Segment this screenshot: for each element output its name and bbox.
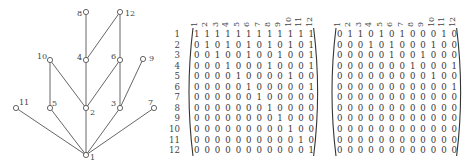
matrix-cell: 1 xyxy=(347,29,352,39)
matrix-cell: 0 xyxy=(410,92,415,102)
column-label: 6 xyxy=(385,22,394,27)
matrix-cell: 1 xyxy=(389,50,394,60)
column-label: 7 xyxy=(253,22,262,27)
column-label: 2 xyxy=(343,22,352,27)
matrix-cell: 0 xyxy=(410,124,415,134)
matrix-cell: 1 xyxy=(410,61,415,71)
matrix-cell: 0 xyxy=(347,50,352,60)
matrix-cell: 0 xyxy=(441,145,446,155)
matrix-cell: 0 xyxy=(236,92,241,102)
matrix-cell: 1 xyxy=(298,29,303,39)
matrix-cell: 0 xyxy=(194,82,199,92)
matrix-cell: 1 xyxy=(215,29,220,39)
matrix-cell: 0 xyxy=(204,61,209,71)
matrix-cell: 0 xyxy=(267,82,272,92)
column-label: 5 xyxy=(375,22,384,27)
matrix-cell: 0 xyxy=(379,50,384,60)
row-label: 5 xyxy=(175,71,180,81)
matrix-cell: 0 xyxy=(298,92,303,102)
matrix-cell: 0 xyxy=(379,103,384,113)
column-label: 4 xyxy=(364,22,373,27)
matrix-cell: 0 xyxy=(309,135,314,145)
matrix-cell: 0 xyxy=(410,103,415,113)
matrix-cell: 0 xyxy=(347,103,352,113)
matrix-cell: 0 xyxy=(246,113,251,123)
matrix-cell: 0 xyxy=(358,82,363,92)
matrix-cell: 1 xyxy=(236,29,241,39)
matrix-cell: 0 xyxy=(441,124,446,134)
matrix-cell: 0 xyxy=(277,103,282,113)
matrix-cell: 0 xyxy=(431,145,436,155)
matrix-cell: 0 xyxy=(420,82,425,92)
matrix-cell: 0 xyxy=(389,92,394,102)
matrix-cell: 0 xyxy=(410,29,415,39)
column-label: 5 xyxy=(232,22,241,27)
matrix-cell: 0 xyxy=(410,71,415,81)
matrix-cell: 0 xyxy=(236,145,241,155)
matrix-cell: 0 xyxy=(452,92,457,102)
matrix-cell: 0 xyxy=(368,124,373,134)
column-label: 11 xyxy=(294,17,303,27)
matrix-cell: 0 xyxy=(257,124,262,134)
matrix-cell: 0 xyxy=(410,113,415,123)
matrix-cell: 0 xyxy=(215,61,220,71)
matrix-cell: 0 xyxy=(358,40,363,50)
matrix-cell: 0 xyxy=(236,113,241,123)
matrix-cell: 0 xyxy=(379,61,384,71)
row-label: 1 xyxy=(175,29,180,39)
column-label: 4 xyxy=(221,22,230,27)
matrix-cell: 0 xyxy=(277,145,282,155)
matrix-cell: 0 xyxy=(288,113,293,123)
matrix-cell: 0 xyxy=(267,145,272,155)
matrix-cell: 0 xyxy=(441,82,446,92)
matrix-cell: 0 xyxy=(452,113,457,123)
row-label: 7 xyxy=(175,92,180,102)
matrix-cell: 0 xyxy=(400,145,405,155)
right-bracket xyxy=(314,28,318,156)
matrix-cell: 0 xyxy=(347,92,352,102)
matrix-cell: 1 xyxy=(204,40,209,50)
matrix-cell: 0 xyxy=(236,103,241,113)
left-bracket xyxy=(189,28,193,156)
matrix-cell: 0 xyxy=(194,124,199,134)
matrix-cell: 0 xyxy=(358,145,363,155)
matrix-cell: 0 xyxy=(337,29,342,39)
matrix-cell: 0 xyxy=(347,113,352,123)
matrix-cell: 0 xyxy=(420,61,425,71)
matrix-cell: 0 xyxy=(389,82,394,92)
matrix-cell: 0 xyxy=(389,61,394,71)
matrix-cell: 0 xyxy=(400,103,405,113)
matrix-cell: 0 xyxy=(368,29,373,39)
matrix-cell: 0 xyxy=(257,50,262,60)
matrix-cell: 0 xyxy=(298,40,303,50)
matrix-cell: 0 xyxy=(358,61,363,71)
matrix-cell: 0 xyxy=(298,124,303,134)
matrix-cell: 0 xyxy=(337,71,342,81)
matrix-cell: 0 xyxy=(277,71,282,81)
matrices: 1234567891011121234567891011121111111111… xyxy=(0,0,475,166)
matrix-cell: 0 xyxy=(431,50,436,60)
matrix-cell: 0 xyxy=(420,103,425,113)
matrix-cell: 1 xyxy=(267,29,272,39)
matrix-cell: 0 xyxy=(358,71,363,81)
matrix-cell: 1 xyxy=(277,29,282,39)
matrix-cell: 1 xyxy=(288,124,293,134)
matrix-cell: 0 xyxy=(358,124,363,134)
matrix-cell: 0 xyxy=(420,113,425,123)
matrix-cell: 0 xyxy=(420,145,425,155)
matrix-cell: 1 xyxy=(194,29,199,39)
matrix-cell: 1 xyxy=(288,40,293,50)
matrix-cell: 0 xyxy=(337,50,342,60)
matrix-cell: 0 xyxy=(347,82,352,92)
matrix-cell: 0 xyxy=(257,103,262,113)
matrix-cell: 0 xyxy=(368,92,373,102)
matrix-cell: 0 xyxy=(420,92,425,102)
matrix-cell: 0 xyxy=(257,71,262,81)
matrix-cell: 0 xyxy=(389,29,394,39)
matrix-cell: 0 xyxy=(452,135,457,145)
matrix-cell: 0 xyxy=(225,145,230,155)
matrix-cell: 1 xyxy=(368,40,373,50)
matrix-cell: 0 xyxy=(452,50,457,60)
matrix-cell: 0 xyxy=(257,135,262,145)
matrix-cell: 0 xyxy=(298,103,303,113)
